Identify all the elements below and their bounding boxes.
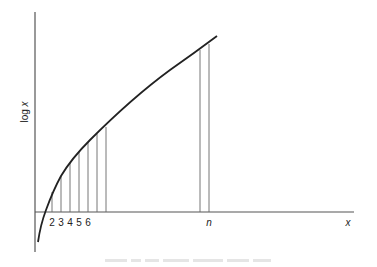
tick-label: 2 (49, 217, 55, 228)
n-verticals (200, 44, 209, 212)
x-axis-label: x (345, 217, 352, 228)
log-chart: log x 2 3 4 5 6 n x (0, 0, 377, 267)
y-axis-label: log x (19, 100, 30, 122)
log-curve (38, 36, 217, 242)
tick-label: 5 (76, 217, 82, 228)
tick-label: 6 (85, 217, 91, 228)
integer-verticals (52, 127, 106, 212)
n-label: n (206, 217, 212, 228)
tick-label: 3 (58, 217, 64, 228)
faded-caption (105, 259, 275, 263)
tick-label: 4 (67, 217, 73, 228)
